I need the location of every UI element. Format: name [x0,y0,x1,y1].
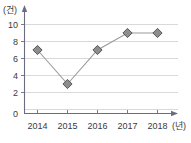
x-tick-label-2017: 2017 [117,121,137,131]
x-tick-label-2015: 2015 [57,121,77,131]
y-axis-arrow [22,5,27,12]
x-axis [24,110,178,116]
y-tick-label-4: 4 [13,71,18,81]
x-axis-unit-label: (년) [172,121,186,131]
y-tick-label-2: 2 [13,88,18,98]
line-chart-figure: 10 8 6 4 2 0 2014 2015 2016 2017 2018 (건… [0,0,191,143]
chart-canvas: 10 8 6 4 2 0 2014 2015 2016 2017 2018 (건… [0,0,191,143]
data-point-2017 [123,28,132,37]
y-axis [21,5,27,113]
y-tick-label-6: 6 [13,54,18,64]
x-tick-label-2018: 2018 [147,121,167,131]
y-axis-unit-label: (건) [3,5,17,15]
x-tick-label-2016: 2016 [87,121,107,131]
x-tick-labels: 2014 2015 2016 2017 2018 [27,121,167,131]
data-point-2018 [153,28,162,37]
gridlines [24,25,178,110]
y-tick-label-10: 10 [8,20,18,30]
y-tick-label-8: 8 [13,37,18,47]
x-axis-arrow [171,111,178,116]
y-tick-labels: 10 8 6 4 2 0 [8,20,18,119]
x-tick-label-2014: 2014 [27,121,47,131]
y-tick-label-0: 0 [13,109,18,119]
